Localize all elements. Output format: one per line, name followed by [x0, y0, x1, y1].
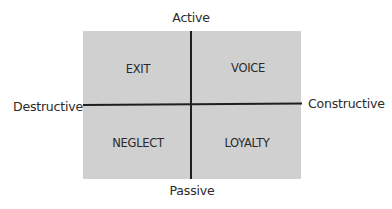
axis-label-destructive: Destructive — [13, 100, 79, 114]
quadrant-loyalty: LOYALTY — [197, 136, 297, 150]
quadrant-exit: EXIT — [88, 62, 188, 76]
quadrant-neglect: NEGLECT — [88, 136, 188, 150]
quadrant-voice: VOICE — [198, 61, 298, 75]
axis-label-passive: Passive — [162, 184, 222, 198]
axis-label-active: Active — [167, 11, 215, 25]
quadrant-diagram: Active Passive Destructive Constructive … — [0, 0, 392, 209]
axis-label-constructive: Constructive — [308, 97, 388, 111]
